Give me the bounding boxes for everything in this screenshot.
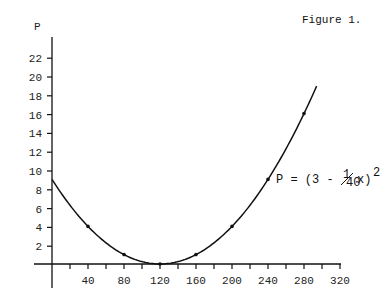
marked-points <box>86 112 306 266</box>
data-point <box>86 225 90 229</box>
y-tick-label: 18 <box>29 91 42 103</box>
x-tick-label: 240 <box>258 275 278 287</box>
data-point <box>230 225 234 229</box>
x-tick-label: 120 <box>150 275 170 287</box>
y-tick-label: 22 <box>29 53 42 65</box>
x-tick-label: 280 <box>294 275 314 287</box>
parabola-chart: 246810121416182022 408012016020024028032… <box>0 0 387 301</box>
y-axis-ticks: 246810121416182022 <box>29 53 52 253</box>
y-axis-label: P <box>34 21 41 33</box>
data-point <box>194 253 198 257</box>
data-point <box>158 262 162 266</box>
equation-exponent: 2 <box>373 166 380 180</box>
equation-label: P = (3 - 1 40 x) 2 <box>276 166 380 190</box>
x-tick-label: 160 <box>186 275 206 287</box>
equation-suffix: x) <box>357 173 371 187</box>
y-tick-label: 20 <box>29 72 42 84</box>
y-tick-label: 14 <box>29 128 43 140</box>
y-tick-label: 4 <box>35 222 42 234</box>
data-point <box>302 112 306 116</box>
y-tick-label: 16 <box>29 110 42 122</box>
x-tick-label: 320 <box>330 275 350 287</box>
data-point <box>266 178 270 182</box>
data-point <box>122 253 126 257</box>
y-tick-label: 8 <box>35 185 42 197</box>
y-tick-label: 12 <box>29 147 42 159</box>
x-axis-ticks: 4080120160200240280320 <box>70 264 350 287</box>
y-tick-label: 6 <box>35 204 42 216</box>
x-tick-label: 40 <box>81 275 94 287</box>
y-tick-label: 10 <box>29 166 42 178</box>
x-tick-label: 80 <box>117 275 130 287</box>
y-tick-label: 2 <box>35 241 42 253</box>
equation-prefix: P = (3 - <box>276 173 334 187</box>
axes <box>34 37 341 288</box>
figure-title: Figure 1. <box>302 14 361 26</box>
x-tick-label: 200 <box>222 275 242 287</box>
